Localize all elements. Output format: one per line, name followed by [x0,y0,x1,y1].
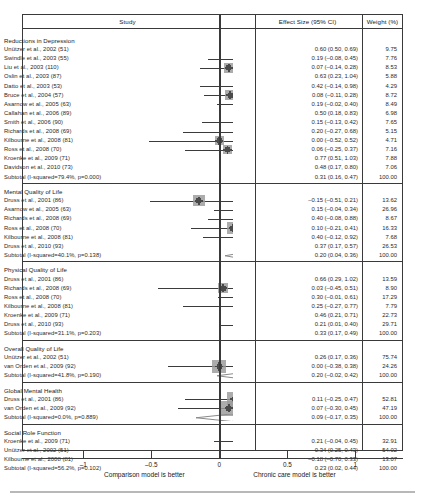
weight-value: 26.96 [340,205,397,214]
subtotal-diamond [196,414,233,422]
weight-value: 75.74 [340,353,397,362]
column-header-weight: Weight (%) [362,18,403,25]
x-axis-line [22,458,403,459]
bottom-rule [10,491,415,493]
weight-value: 8.90 [340,284,397,293]
confidence-interval-line [214,210,233,211]
weight-value: 9.75 [340,45,397,54]
weight-value: 47.19 [340,404,397,413]
confidence-interval-line [183,132,233,133]
column-separator-1 [362,14,363,451]
axis-tick [83,451,84,458]
axis-tick-label: –1 [68,461,98,468]
effect-marker [225,147,230,152]
confidence-interval-line [208,219,233,220]
forest-plot-area [22,14,233,451]
weight-value: 7.65 [340,118,397,127]
subtotal-diamond [225,252,233,260]
weight-value: 100.00 [340,371,397,380]
table-row: Kilbourne et al., 2008 (81)–0.18 (–0.70,… [0,455,381,464]
weight-value: 8.53 [340,63,397,72]
forest-plot-figure: Study Effect Size (95% CI) Weight (%) Re… [0,0,425,499]
weight-value: 32.91 [340,437,397,446]
confidence-interval-line [183,306,233,307]
axis-tick-label: 0 [204,461,234,468]
weight-value: 17.29 [340,293,397,302]
weight-value: 8.49 [340,100,397,109]
weight-value: 24.26 [340,362,397,371]
weight-value: 7.76 [340,54,397,63]
column-separator-0 [255,14,256,451]
null-effect-line [219,14,220,459]
weight-value: 13.59 [340,275,397,284]
weight-value: 100.00 [340,329,397,338]
weight-value: 100.00 [340,413,397,422]
weight-value: 4.71 [340,136,397,145]
confidence-interval-line [214,441,233,442]
weight-value: 13.62 [340,196,397,205]
weight-value: 54.02 [340,446,397,455]
weight-value: 29.71 [340,320,397,329]
weight-value: 7.06 [340,163,397,172]
weight-value: 22.73 [340,311,397,320]
weight-value: 16.33 [340,224,397,233]
effect-marker [230,226,233,231]
confidence-interval-line [202,122,233,123]
weight-value: 5.15 [340,127,397,136]
column-header-effect-size: Effect Size (95% CI) [255,18,360,25]
axis-tick [151,451,152,458]
weight-value: 6.98 [340,109,397,118]
weight-value: 8.67 [340,214,397,223]
axis-caption-left: Comparison model is better [104,471,185,478]
weight-value: 7.88 [340,154,397,163]
weight-value: 26.53 [340,242,397,251]
weight-value: 7.16 [340,145,397,154]
weight-value: 7.79 [340,302,397,311]
weight-value: 8.72 [340,91,397,100]
confidence-interval-line [208,59,233,60]
study-label: Kilbourne et al., 2008 (81) [4,455,73,464]
confidence-interval-line [203,237,233,238]
confidence-interval-line [221,325,233,326]
effect-marker [228,93,233,98]
axis-tick [287,451,288,458]
effect-marker [226,406,231,411]
axis-tick-label: 1 [340,461,370,468]
effect-marker [226,65,231,70]
effect-marker [221,286,226,291]
weight-value: 4.29 [340,82,397,91]
weight-value: 100.00 [340,173,397,182]
axis-caption-right: Chronic care model is better [253,471,335,478]
weight-value: 5.88 [340,72,397,81]
effect-marker [196,198,201,203]
axis-tick [355,451,356,458]
weight-value: 7.68 [340,233,397,242]
weight-value: 52.81 [340,395,397,404]
axis-tick-label: –0.5 [136,461,166,468]
weight-value: 100.00 [340,251,397,260]
confidence-interval-line [200,86,233,87]
axis-tick-label: 0.5 [272,461,302,468]
